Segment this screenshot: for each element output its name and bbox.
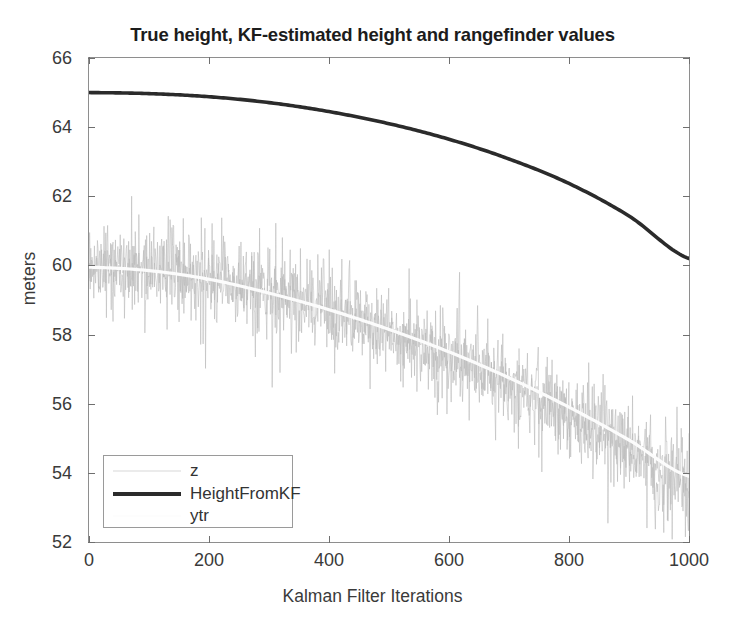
x-tick-label: 200	[194, 551, 224, 569]
y-tick-mark	[683, 335, 690, 336]
y-tick-label: 64	[52, 118, 72, 136]
y-tick-label: 60	[52, 256, 72, 274]
y-tick-label: 54	[52, 464, 72, 482]
chart-title: True height, KF-estimated height and ran…	[0, 24, 745, 46]
y-tick-mark	[683, 404, 690, 405]
y-tick-label: 58	[52, 326, 72, 344]
y-tick-mark	[88, 196, 95, 197]
legend-item-heightfromkf[interactable]: HeightFromKF	[104, 482, 292, 505]
legend-line-z-icon	[113, 464, 181, 478]
y-tick-mark	[88, 473, 95, 474]
x-tick-mark	[329, 536, 330, 543]
y-tick-mark	[88, 404, 95, 405]
x-tick-mark	[89, 536, 90, 543]
x-tick-label: 400	[314, 551, 344, 569]
x-tick-mark	[689, 536, 690, 543]
y-tick-label: 62	[52, 187, 72, 205]
legend-item-z[interactable]: z	[104, 459, 292, 482]
x-axis-label: Kalman Filter Iterations	[0, 586, 745, 607]
y-tick-mark	[683, 473, 690, 474]
x-tick-label: 800	[554, 551, 584, 569]
x-tick-label: 0	[84, 551, 94, 569]
x-tick-mark	[209, 536, 210, 543]
x-tick-mark	[689, 57, 690, 64]
y-tick-mark	[683, 265, 690, 266]
legend-label-heightfromkf: HeightFromKF	[190, 485, 301, 502]
series-heightfromkf-line	[89, 93, 689, 259]
x-tick-mark	[209, 57, 210, 64]
legend-label-z: z	[190, 462, 199, 479]
legend-label-ytr: ytr	[190, 507, 209, 524]
legend-item-ytr[interactable]: ytr	[104, 504, 292, 527]
x-tick-mark	[569, 57, 570, 64]
legend-line-ytr-icon	[113, 509, 181, 523]
x-tick-label: 600	[434, 551, 464, 569]
x-tick-mark	[569, 536, 570, 543]
y-tick-mark	[88, 335, 95, 336]
y-axis-label: meters	[19, 239, 40, 319]
x-tick-mark	[449, 536, 450, 543]
y-tick-mark	[683, 127, 690, 128]
legend[interactable]: z HeightFromKF ytr	[103, 455, 293, 528]
y-tick-label: 66	[52, 49, 72, 67]
y-tick-label: 56	[52, 395, 72, 413]
x-tick-mark	[449, 57, 450, 64]
legend-line-heightfromkf-icon	[113, 487, 181, 501]
y-tick-mark	[683, 196, 690, 197]
y-tick-mark	[88, 265, 95, 266]
y-tick-label: 52	[52, 533, 72, 551]
x-tick-mark	[89, 57, 90, 64]
x-tick-label: 1000	[669, 551, 709, 569]
figure-canvas: True height, KF-estimated height and ran…	[0, 0, 745, 627]
y-tick-mark	[88, 127, 95, 128]
x-tick-mark	[329, 57, 330, 64]
